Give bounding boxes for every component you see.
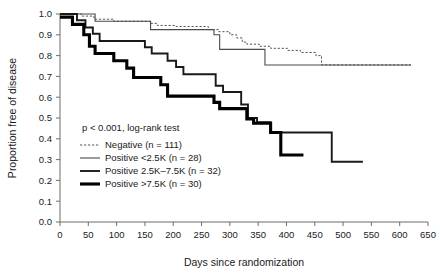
- x-tick-label: 350: [250, 229, 266, 240]
- y-tick-label: 0.6: [39, 92, 52, 103]
- x-tick-label: 100: [109, 229, 125, 240]
- y-tick-label: 0.4: [39, 133, 52, 144]
- y-tick-label: 0.0: [39, 216, 52, 227]
- y-tick-label: 1.0: [39, 8, 52, 19]
- x-tick-label: 400: [279, 229, 295, 240]
- y-tick-label: 0.8: [39, 50, 52, 61]
- chart-canvas: 0.00.10.20.30.40.50.60.70.80.91.0 050100…: [0, 0, 440, 273]
- y-tick-label: 0.5: [39, 112, 52, 123]
- survival-curve-3: [60, 17, 303, 155]
- x-tick-label: 50: [83, 229, 94, 240]
- y-axis-tick-group: 0.00.10.20.30.40.50.60.70.80.91.0: [39, 8, 60, 227]
- legend-label-1: Positive <2.5K (n = 28): [105, 152, 202, 163]
- legend-label-3: Positive >7.5K (n = 30): [105, 178, 202, 189]
- x-tick-label: 150: [137, 229, 153, 240]
- y-axis-title: Proportion free of disease: [6, 58, 18, 178]
- x-axis-title: Days since randomization: [184, 256, 304, 268]
- x-tick-label: 200: [165, 229, 181, 240]
- y-tick-label: 0.7: [39, 71, 52, 82]
- x-tick-label: 500: [335, 229, 351, 240]
- x-tick-label: 450: [307, 229, 323, 240]
- x-tick-label: 300: [222, 229, 238, 240]
- x-tick-label: 250: [194, 229, 210, 240]
- x-tick-label: 550: [363, 229, 379, 240]
- y-tick-label: 0.9: [39, 29, 52, 40]
- y-tick-label: 0.1: [39, 196, 52, 207]
- chart-legend: Negative (n = 111)Positive <2.5K (n = 28…: [80, 139, 221, 189]
- x-tick-label: 650: [420, 229, 436, 240]
- kaplan-meier-chart: 0.00.10.20.30.40.50.60.70.80.91.0 050100…: [0, 0, 440, 273]
- legend-label-2: Positive 2.5K–7.5K (n = 32): [105, 165, 221, 176]
- x-axis-tick-group: 050100150200250300350400450500550600650: [57, 222, 436, 240]
- y-tick-label: 0.3: [39, 154, 52, 165]
- y-tick-label: 0.2: [39, 175, 52, 186]
- legend-label-0: Negative (n = 111): [105, 139, 182, 150]
- x-tick-label: 600: [392, 229, 408, 240]
- p-value-annotation: p < 0.001, log-rank test: [82, 122, 180, 133]
- x-tick-label: 0: [57, 229, 62, 240]
